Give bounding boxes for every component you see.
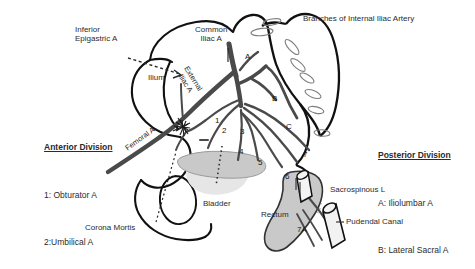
marker-posterior-a: A <box>245 52 250 61</box>
pudendal-canal-tube <box>321 201 345 248</box>
callout-inferior-epigastric: Inferior Epigastric A <box>75 25 117 44</box>
sacral-foramina <box>251 17 331 137</box>
diagram-canvas: Branches of Internal Iliac Artery Inferi… <box>0 0 475 269</box>
legend-posterior-item: A: Iliolumbar A <box>378 198 458 208</box>
sacrum-lateral-border <box>286 14 339 136</box>
marker-posterior-c: C <box>286 122 292 131</box>
legend-anterior-item: 1: Obturator A <box>44 190 154 200</box>
legend-posterior-header: Posterior Division <box>378 150 458 160</box>
marker-3: 3 <box>240 127 244 136</box>
legend-anterior-header: Anterior Division <box>44 142 154 152</box>
callout-common-iliac: Common Iliac A <box>195 25 227 44</box>
marker-7: 7 <box>303 150 307 159</box>
callout-sacrospinous-ligament: Sacrospinous L <box>330 185 385 194</box>
marker-4: 4 <box>239 147 243 156</box>
callout-ilium: Ilium <box>148 73 165 82</box>
obturator-artery <box>186 100 239 132</box>
marker-posterior-b: B <box>272 94 277 103</box>
pubic-symphysis <box>205 224 211 237</box>
legend-anterior-division: Anterior Division 1: Obturator A 2:Umbil… <box>44 104 154 269</box>
iliac-fossa-edge <box>150 59 172 62</box>
legend-anterior-item: 2:Umbilical A <box>44 237 154 247</box>
callout-bladder: Bladder <box>203 199 231 208</box>
callout-rectum: Rectum <box>261 210 289 219</box>
legend-posterior-division: Posterior Division A: Iliolumbar A B: La… <box>378 112 458 269</box>
marker-6: 6 <box>285 172 289 181</box>
marker-1: 1 <box>215 116 219 125</box>
page-title: Branches of Internal Iliac Artery <box>303 14 414 23</box>
marker-5: 5 <box>258 158 262 167</box>
leader-inferior-epigastric <box>128 58 180 74</box>
legend-posterior-item: B: Lateral Sacral A <box>378 245 458 255</box>
marker-7a: 7A <box>297 225 307 234</box>
marker-2: 2 <box>222 126 226 135</box>
